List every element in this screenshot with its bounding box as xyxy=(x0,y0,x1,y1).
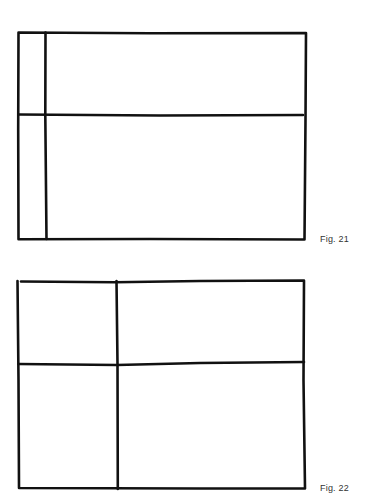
fig21-vertical-divider xyxy=(45,33,46,240)
fig21-horizontal-divider xyxy=(19,115,303,116)
fig22-vertical-divider xyxy=(117,281,118,489)
fig22-horizontal-divider xyxy=(19,362,305,365)
diagram-canvas xyxy=(0,0,368,500)
fig21-frame xyxy=(18,33,306,240)
figure-22-caption: Fig. 22 xyxy=(320,483,349,493)
figure-22-drawing xyxy=(18,281,306,490)
figure-21-drawing xyxy=(18,33,306,240)
figure-21-caption: Fig. 21 xyxy=(320,234,349,244)
fig22-frame xyxy=(18,281,306,489)
